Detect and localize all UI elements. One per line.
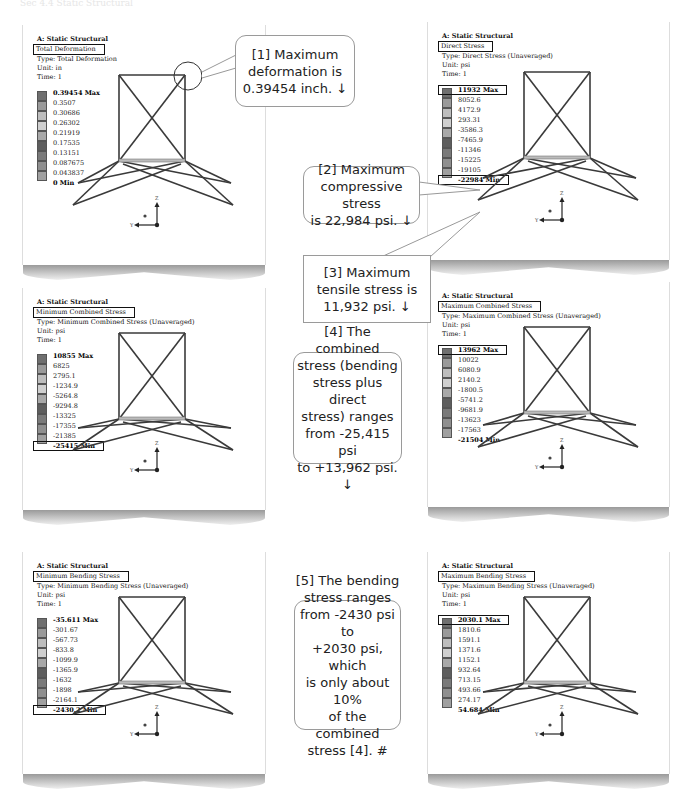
- callout-line: +2030 psi, which: [295, 640, 400, 674]
- triad-z-arrow: [155, 711, 160, 716]
- panel-drop-shadow: [23, 510, 265, 528]
- tower-members: [478, 327, 638, 447]
- triad-z-label: Z: [155, 440, 159, 446]
- callout-line: is 22,984 psi. ↓: [304, 212, 419, 229]
- tower-member: [478, 161, 586, 200]
- tower-platform: [119, 159, 185, 162]
- callout-line: [5] The bending: [295, 572, 400, 589]
- tower-members: [73, 333, 233, 450]
- triad-z-label: Z: [155, 704, 159, 710]
- panel-direct-stress: A: Static StructuralDirect StressType: D…: [427, 22, 670, 260]
- tower-member: [590, 413, 638, 447]
- callout-text: [4] The combinedstress (bendingstress pl…: [294, 323, 401, 493]
- coordinate-triad-icon: ZY: [534, 704, 565, 737]
- triad-y-arrow: [539, 465, 544, 470]
- triad-y-arrow: [134, 223, 139, 228]
- callout-line: stress (bending: [294, 357, 401, 374]
- panel-maximum-combined-stress: A: Static StructuralMaximum Combined Str…: [427, 282, 670, 507]
- coordinate-triad-icon: ZY: [129, 195, 160, 228]
- coordinate-triad-icon: ZY: [534, 190, 565, 223]
- tower-member: [590, 158, 636, 178]
- tower-model-view: ZY: [428, 22, 671, 260]
- panel-minimum-bending-stress: A: Static StructuralMinimum Bending Stre…: [22, 552, 266, 774]
- panel-total-deformation: A: Static StructuralTotal DeformationTyp…: [22, 25, 266, 265]
- tower-member: [123, 164, 233, 205]
- callout-line: 0.39454 inch. ↓: [243, 80, 347, 97]
- callout-text: [2] Maximumcompressive stressis 22,984 p…: [304, 161, 419, 229]
- triad-x-axis-dot: [143, 214, 146, 217]
- triad-x-axis-dot: [143, 459, 146, 462]
- callout-4: [4] The combinedstress (bendingstress pl…: [293, 352, 402, 464]
- panel-drop-shadow: [23, 774, 265, 792]
- panel-minimum-combined-stress: A: Static StructuralMinimum Combined Str…: [22, 288, 266, 510]
- tower-member: [185, 161, 233, 205]
- callout-2: [2] Maximumcompressive stressis 22,984 p…: [303, 166, 420, 224]
- triad-x-axis-dot: [548, 209, 551, 212]
- triad-y-label: Y: [534, 464, 539, 470]
- tower-member: [478, 158, 524, 200]
- callout-line: from -2430 psi to: [295, 606, 400, 640]
- triad-origin: [155, 223, 159, 227]
- triad-z-arrow: [155, 202, 160, 207]
- callout-line: stress plus direct: [294, 374, 401, 408]
- triad-y-arrow: [134, 468, 139, 473]
- panel-drop-shadow: [428, 260, 669, 278]
- triad-origin: [155, 732, 159, 736]
- callout-line: stress [4]. #: [295, 742, 400, 759]
- callout-text: [3] Maximumtensile stress is11,932 psi. …: [317, 264, 417, 315]
- tower-members: [478, 72, 638, 200]
- triad-z-arrow: [560, 711, 565, 716]
- tower-platform: [524, 681, 590, 684]
- triad-y-arrow: [539, 218, 544, 223]
- triad-x-axis-dot: [548, 723, 551, 726]
- callout-line: [3] Maximum: [317, 264, 417, 281]
- triad-z-arrow: [155, 447, 160, 452]
- tower-member: [78, 161, 185, 183]
- callout-line: [4] The combined: [294, 323, 401, 357]
- tower-member: [478, 413, 524, 447]
- triad-z-arrow: [560, 197, 565, 202]
- callout-text: [5] The bendingstress rangesfrom -2430 p…: [295, 572, 400, 759]
- triad-origin: [560, 732, 564, 736]
- tower-member: [185, 161, 231, 183]
- tower-member: [590, 158, 638, 200]
- triad-x-axis-dot: [143, 723, 146, 726]
- tower-members: [478, 597, 638, 714]
- tower-platform: [119, 417, 185, 420]
- triad-z-label: Z: [560, 190, 564, 196]
- callout-line: from -25,415 psi: [294, 425, 401, 459]
- panel-drop-shadow: [23, 265, 265, 283]
- tower-member: [528, 161, 638, 200]
- tower-member: [119, 161, 231, 183]
- tower-platform: [524, 411, 590, 414]
- triad-y-arrow: [539, 732, 544, 737]
- callout-line: stress ranges: [295, 589, 400, 606]
- callout-line: compressive stress: [304, 178, 419, 212]
- callout-line: is only about 10%: [295, 674, 400, 708]
- triad-z-label: Z: [560, 437, 564, 443]
- callout-line: deformation is: [243, 63, 347, 80]
- callout-line: stress) ranges: [294, 408, 401, 425]
- tower-model-view: ZY: [428, 282, 671, 507]
- tower-model-view: ZY: [23, 288, 267, 510]
- tower-members: [73, 75, 233, 205]
- coordinate-triad-icon: ZY: [129, 704, 160, 737]
- triad-y-label: Y: [129, 467, 134, 473]
- panel-drop-shadow: [428, 774, 669, 792]
- tower-member: [478, 416, 586, 447]
- coordinate-triad-icon: ZY: [534, 437, 565, 470]
- tower-model-view: ZY: [428, 552, 671, 774]
- triad-y-arrow: [134, 732, 139, 737]
- callout-text: [1] Maximumdeformation is0.39454 inch. ↓: [243, 46, 347, 97]
- callout-line: 11,932 psi. ↓: [317, 298, 417, 315]
- tower-platform: [524, 156, 590, 159]
- triad-z-label: Z: [560, 704, 564, 710]
- triad-y-label: Y: [534, 731, 539, 737]
- callout-line: tensile stress is: [317, 281, 417, 298]
- callout-5: [5] The bendingstress rangesfrom -2430 p…: [294, 600, 401, 730]
- triad-origin: [155, 468, 159, 472]
- panel-maximum-bending-stress: A: Static StructuralMaximum Bending Stre…: [427, 552, 670, 774]
- faded-section-header: Sec 4.4 Static Structural: [20, 0, 200, 6]
- triad-y-label: Y: [129, 222, 134, 228]
- callout-line: [2] Maximum: [304, 161, 419, 178]
